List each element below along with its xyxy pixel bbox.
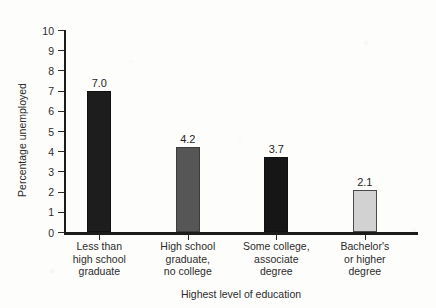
category-label-line: degree (340, 265, 389, 278)
category-label-line: or higher (340, 253, 389, 266)
category-label-line: Less than (73, 240, 126, 253)
category-label-line: Some college, (243, 240, 310, 253)
y-tick-label-6: 6 (48, 106, 54, 117)
y-axis-title-text: Percentage unemployed (16, 83, 28, 197)
y-tick-0: 0 (58, 232, 64, 233)
category-label-line: High school (160, 240, 215, 253)
y-tick-4: 4 (58, 151, 64, 152)
category-label-line: graduate, (160, 253, 215, 266)
bar-value-label-4: 2.1 (357, 177, 372, 188)
bar-value-label-2: 4.2 (180, 134, 195, 145)
plot-area: 012345678910 7.04.23.72.1 (64, 30, 418, 232)
bar-4: 2.1 (353, 190, 377, 232)
y-tick-3: 3 (58, 171, 64, 172)
y-tick-label-0: 0 (48, 227, 54, 238)
bar-1: 7.0 (87, 91, 111, 232)
y-tick-label-1: 1 (48, 207, 54, 218)
y-axis-line (64, 30, 66, 232)
y-tick-label-9: 9 (48, 45, 54, 56)
category-label-line: associate (243, 253, 310, 266)
category-label-1: Less thanhigh schoolgraduate (73, 240, 126, 278)
category-label-line: high school (73, 253, 126, 266)
y-tick-9: 9 (58, 50, 64, 51)
category-label-line: degree (243, 265, 310, 278)
y-axis-title: Percentage unemployed (14, 60, 30, 220)
y-tick-6: 6 (58, 111, 64, 112)
category-label-line: Bachelor's (340, 240, 389, 253)
bar-2: 4.2 (176, 147, 200, 232)
category-label-3: Some college,associatedegree (243, 240, 310, 278)
bar-chart-figure: Percentage unemployed 012345678910 7.04.… (0, 0, 436, 308)
bar-3: 3.7 (264, 157, 288, 232)
category-label-4: Bachelor'sor higherdegree (340, 240, 389, 278)
y-tick-8: 8 (58, 70, 64, 71)
y-tick-5: 5 (58, 131, 64, 132)
x-axis-category-labels: Less thanhigh schoolgraduateHigh schoolg… (64, 240, 418, 288)
y-tick-label-8: 8 (48, 66, 54, 77)
bar-value-label-3: 3.7 (269, 144, 284, 155)
y-tick-label-10: 10 (42, 25, 54, 36)
x-axis-title: Highest level of education (64, 288, 418, 300)
y-tick-7: 7 (58, 91, 64, 92)
category-label-line: graduate (73, 265, 126, 278)
category-label-2: High schoolgraduate,no college (160, 240, 215, 278)
category-label-line: no college (160, 265, 215, 278)
bar-value-label-1: 7.0 (92, 78, 107, 89)
y-tick-2: 2 (58, 192, 64, 193)
y-tick-1: 1 (58, 212, 64, 213)
y-tick-label-3: 3 (48, 167, 54, 178)
y-tick-label-7: 7 (48, 86, 54, 97)
y-tick-label-2: 2 (48, 187, 54, 198)
y-tick-10: 10 (58, 30, 64, 31)
y-tick-label-5: 5 (48, 126, 54, 137)
y-tick-label-4: 4 (48, 146, 54, 157)
